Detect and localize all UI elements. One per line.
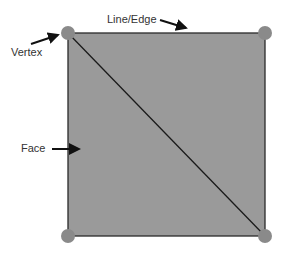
vertex-top-right	[258, 26, 272, 40]
vertex-bottom-left	[61, 229, 75, 243]
mesh-diagram	[0, 0, 283, 257]
edge-label: Line/Edge	[107, 13, 157, 25]
vertex-bottom-right	[258, 229, 272, 243]
vertex-label: Vertex	[11, 46, 42, 58]
vertex-arrow-icon	[31, 35, 58, 44]
face-label: Face	[21, 142, 45, 154]
edge-arrow-icon	[160, 20, 186, 28]
vertex-top-left	[61, 26, 75, 40]
